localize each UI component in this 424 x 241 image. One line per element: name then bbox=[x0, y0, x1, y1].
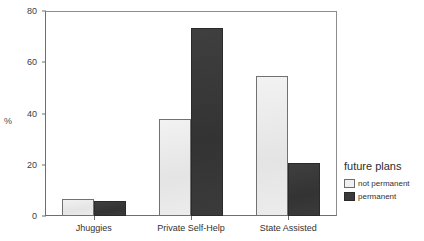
x-tick-mark bbox=[191, 216, 192, 220]
y-tick-label: 0 bbox=[32, 212, 37, 221]
y-tick-label: 40 bbox=[27, 109, 37, 118]
bar-private-self-help-permanent bbox=[191, 28, 223, 216]
bar-chart: % 020406080 JhuggiesPrivate Self-HelpSta… bbox=[0, 0, 424, 241]
legend: future plans not permanent permanent bbox=[344, 160, 424, 205]
bar-private-self-help-not-permanent bbox=[159, 119, 191, 216]
bars-layer bbox=[45, 11, 337, 216]
bar-jhuggies-not-permanent bbox=[62, 199, 94, 216]
bar-jhuggies-permanent bbox=[94, 201, 126, 216]
x-tick-mark bbox=[288, 216, 289, 220]
legend-swatch-icon-not-permanent bbox=[344, 179, 355, 188]
legend-item-permanent[interactable]: permanent bbox=[344, 192, 424, 201]
legend-swatch-icon-permanent bbox=[344, 192, 355, 201]
y-tick-label: 80 bbox=[27, 7, 37, 16]
legend-title: future plans bbox=[344, 160, 424, 173]
x-tick-label: Jhuggies bbox=[76, 223, 112, 233]
x-tick-label: Private Self-Help bbox=[157, 223, 225, 233]
legend-label-not-permanent: not permanent bbox=[358, 179, 410, 188]
y-tick-label: 20 bbox=[27, 160, 37, 169]
x-axis-ticks: JhuggiesPrivate Self-HelpState Assisted bbox=[45, 216, 337, 241]
x-tick-label: State Assisted bbox=[260, 223, 317, 233]
bar-state-assisted-permanent bbox=[288, 163, 320, 216]
y-axis-ticks: 020406080 bbox=[0, 0, 46, 241]
y-tick-label: 60 bbox=[27, 58, 37, 67]
bar-state-assisted-not-permanent bbox=[256, 76, 288, 216]
x-tick-mark bbox=[94, 216, 95, 220]
legend-label-permanent: permanent bbox=[358, 192, 396, 201]
legend-item-not-permanent[interactable]: not permanent bbox=[344, 179, 424, 188]
